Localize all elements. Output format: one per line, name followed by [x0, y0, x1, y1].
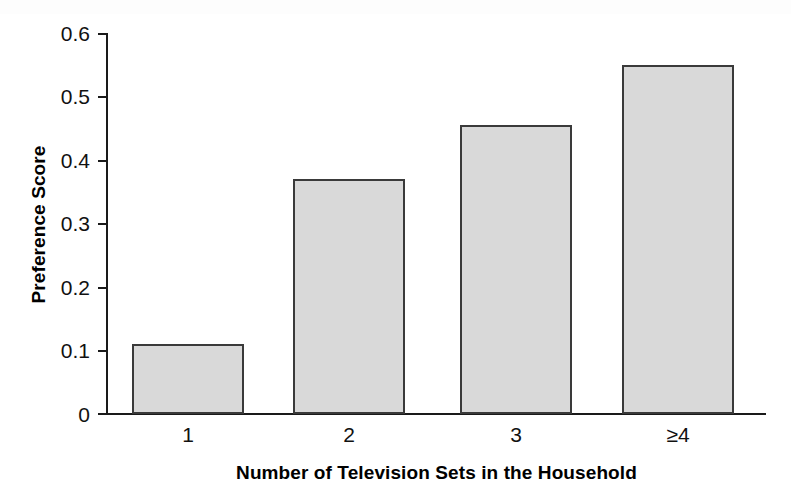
- y-tick-label-0.3: 0.3: [28, 213, 90, 234]
- y-tick-label-0.5: 0.5: [28, 86, 90, 107]
- x-tick-label-ge4: ≥4: [622, 424, 734, 445]
- y-tick-label-0.4: 0.4: [28, 150, 90, 171]
- x-tick-label-2: 2: [293, 424, 405, 445]
- y-tick-label-0.6: 0.6: [28, 23, 90, 44]
- bar-ge4: [622, 65, 734, 414]
- y-tick-label-0.2: 0.2: [28, 277, 90, 298]
- plot-area: [107, 33, 766, 414]
- bar-chart-figure: Preference Score 0.6 0.5 0.4 0.3 0.2 0.1…: [0, 0, 791, 494]
- y-tick-label-0: 0: [28, 404, 90, 425]
- x-axis-title: Number of Television Sets in the Househo…: [107, 462, 766, 484]
- x-tick-label-3: 3: [460, 424, 572, 445]
- bar-2: [293, 179, 405, 414]
- y-tick-label-0.1: 0.1: [28, 340, 90, 361]
- x-tick-label-1: 1: [132, 424, 244, 445]
- bar-1: [132, 344, 244, 414]
- bar-3: [460, 125, 572, 414]
- y-axis-tick-labels: 0.6 0.5 0.4 0.3 0.2 0.1 0: [28, 0, 90, 494]
- scan-noise-band: [0, 0, 791, 14]
